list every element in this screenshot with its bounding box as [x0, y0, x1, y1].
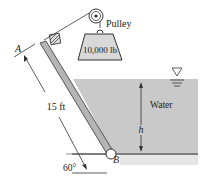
- point-b-label: B: [113, 154, 119, 165]
- water-surface-icon: [170, 68, 184, 86]
- attachment-block: [49, 33, 61, 45]
- hook-icon: [97, 30, 103, 33]
- point-a-label: A: [14, 43, 22, 54]
- weight-label: 10,000 lb: [83, 45, 118, 55]
- depth-label: h: [139, 124, 144, 135]
- cable: [44, 12, 91, 40]
- pulley-icon: [89, 9, 103, 23]
- pulley-label: Pulley: [106, 18, 132, 29]
- angle-label: 60°: [63, 163, 77, 173]
- length-label: 15 ft: [47, 101, 66, 112]
- gate-diagram: Pulley 10,000 lb Water h 15 ft A B 60°: [0, 0, 211, 192]
- water-label: Water: [150, 100, 173, 110]
